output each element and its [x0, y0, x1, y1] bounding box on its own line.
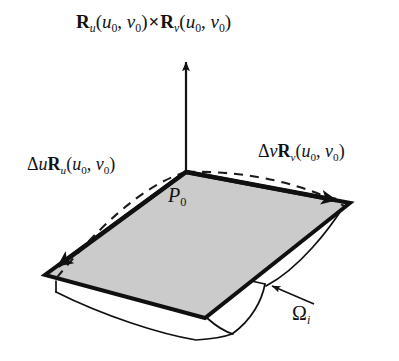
delta-v-R: R	[278, 141, 291, 161]
delta-u-comma: ,	[87, 154, 96, 174]
p0-subscript: 0	[180, 195, 186, 209]
delta-u-close: )	[109, 154, 115, 174]
normal-label-R2: R	[160, 11, 174, 32]
delta-v-label: ΔvRv(u0, v0)	[258, 142, 345, 163]
normal-label-comma2: ,	[201, 11, 211, 32]
p0-symbol: P	[168, 184, 180, 206]
normal-label-R1: R	[76, 11, 90, 32]
cross-product-icon: ×	[148, 11, 161, 32]
point-p0-label: P0	[168, 185, 186, 208]
figure-root: Ru(u0, v0)×Rv(u0, v0) ΔuRu(u0, v0) ΔvRv(…	[0, 0, 399, 361]
normal-label-v2: v	[211, 11, 219, 32]
delta-u-R: R	[48, 154, 61, 174]
diagram-canvas	[0, 0, 399, 361]
omega-symbol: Ω	[292, 302, 307, 324]
delta-v-comma: ,	[316, 141, 325, 161]
delta-v-v0: v	[325, 141, 333, 161]
normal-label-close1: )	[141, 11, 147, 32]
delta-v-close: )	[339, 141, 345, 161]
omega-subscript: i	[307, 313, 310, 327]
delta-v-scalar: v	[270, 141, 278, 161]
delta-u-u0: u	[72, 154, 81, 174]
normal-vector-label: Ru(u0, v0)×Rv(u0, v0)	[76, 12, 231, 35]
delta-u-delta-icon: Δ	[27, 154, 39, 174]
delta-u-v0: v	[96, 154, 104, 174]
delta-v-delta-icon: Δ	[258, 141, 270, 161]
normal-label-u2: u	[186, 11, 196, 32]
region-omega-label: Ωi	[292, 303, 310, 326]
delta-v-u0: u	[302, 141, 311, 161]
normal-label-close2: )	[225, 11, 231, 32]
delta-u-label: ΔuRu(u0, v0)	[27, 155, 115, 176]
delta-u-scalar: u	[39, 154, 48, 174]
normal-label-comma1: ,	[117, 11, 127, 32]
